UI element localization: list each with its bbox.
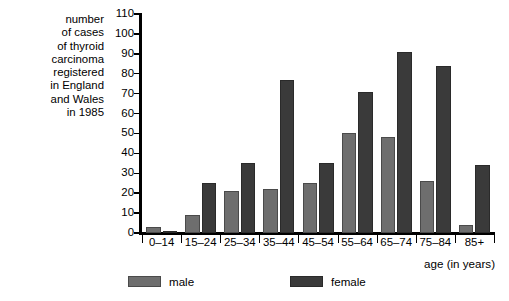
x-group-separator [377, 235, 378, 243]
thyroid-carcinoma-bar-chart: number of cases of thyroid carcinoma reg… [0, 0, 509, 301]
x-tick-label: 55–64 [338, 236, 377, 248]
y-tick-mark [134, 153, 139, 155]
x-tick-label: 15–24 [181, 236, 220, 248]
y-tick-mark [134, 232, 139, 234]
y-tick-mark [134, 212, 139, 214]
x-axis-title: age (in years) [424, 257, 495, 270]
y-tick-label: 110 [104, 8, 134, 19]
x-group-separator [416, 235, 417, 243]
bar-female-65_74 [397, 52, 412, 233]
y-axis-caption: number of cases of thyroid carcinoma reg… [18, 13, 104, 119]
bar-female-25_34 [241, 163, 256, 233]
bar-female-85+ [475, 165, 490, 233]
bar-female-35_44 [280, 80, 295, 233]
bar-female-0_14 [163, 231, 178, 233]
y-tick-mark [134, 113, 139, 115]
x-group-separator [494, 235, 495, 243]
bar-female-15_24 [202, 183, 217, 233]
x-tick-label: 35–44 [259, 236, 298, 248]
y-tick-label: 40 [104, 147, 134, 158]
y-tick-label: 90 [104, 48, 134, 59]
x-group-separator [220, 235, 221, 243]
y-tick-label: 20 [104, 187, 134, 198]
x-tick-label: 65–74 [377, 236, 416, 248]
x-tick-label: 25–34 [220, 236, 259, 248]
bar-female-45_54 [319, 163, 334, 233]
bar-male-35_44 [263, 189, 278, 233]
bar-male-15_24 [185, 215, 200, 233]
legend-label-female: female [331, 276, 366, 288]
bar-female-55_64 [358, 92, 373, 233]
y-tick-label: 100 [104, 28, 134, 39]
y-tick-label: 50 [104, 127, 134, 138]
legend-swatch-male-icon [128, 276, 161, 287]
chart-legend: male female [128, 276, 418, 292]
bar-female-75_84 [436, 66, 451, 233]
y-tick-mark [134, 173, 139, 175]
x-tick-label: 85+ [455, 236, 494, 248]
legend-label-male: male [169, 276, 194, 288]
x-group-separator [259, 235, 260, 243]
plot-area [142, 14, 494, 233]
y-tick-mark [134, 192, 139, 194]
y-tick-label: 60 [104, 108, 134, 119]
y-tick-label: 0 [104, 227, 134, 238]
legend-entry-male: male [128, 276, 194, 288]
bar-male-75_84 [420, 181, 435, 233]
y-tick-mark [134, 33, 139, 35]
y-tick-mark [134, 133, 139, 135]
y-tick-mark [134, 73, 139, 75]
bar-male-25_34 [224, 191, 239, 233]
x-tick-label: 75–84 [416, 236, 455, 248]
x-group-separator [298, 235, 299, 243]
x-group-separator [455, 235, 456, 243]
legend-swatch-female-icon [290, 276, 323, 287]
y-tick-label: 10 [104, 207, 134, 218]
bar-male-55_64 [342, 133, 357, 233]
legend-entry-female: female [290, 276, 366, 288]
y-axis-tick-group: 0102030405060708090100110 [102, 0, 134, 301]
y-tick-label: 30 [104, 167, 134, 178]
y-tick-mark [134, 93, 139, 95]
x-group-separator [181, 235, 182, 243]
y-tick-mark [134, 13, 139, 15]
x-tick-label: 0–14 [142, 236, 181, 248]
bar-male-65_74 [381, 137, 396, 233]
bar-male-45_54 [303, 183, 318, 233]
y-tick-mark [134, 53, 139, 55]
x-tick-label: 45–54 [298, 236, 337, 248]
y-tick-label: 70 [104, 88, 134, 99]
bar-male-0_14 [146, 227, 161, 233]
y-tick-label: 80 [104, 68, 134, 79]
bar-male-85+ [459, 225, 474, 233]
x-group-separator [338, 235, 339, 243]
x-group-separator [142, 235, 143, 243]
